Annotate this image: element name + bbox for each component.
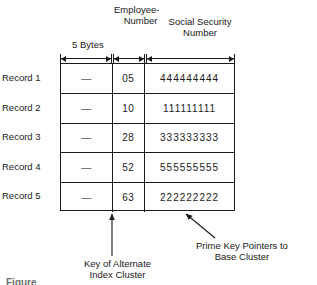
callout-prime-line2: Base Cluster xyxy=(196,251,288,262)
callout-key-line2: Index Cluster xyxy=(84,269,151,280)
callout-prime-line1: Prime Key Pointers to xyxy=(196,240,288,251)
callout-key-of-alternate-index-cluster: Key of Alternate Index Cluster xyxy=(84,258,151,280)
figure-diagram: Employee- Number Social Security Number … xyxy=(0,0,317,285)
callout-key-line1: Key of Alternate xyxy=(84,258,151,269)
callout-prime-key-pointers-to-base-cluster: Prime Key Pointers to Base Cluster xyxy=(196,240,288,262)
figure-caption: Figure xyxy=(6,277,37,285)
leader-line-prime-key-pointers xyxy=(186,214,215,238)
